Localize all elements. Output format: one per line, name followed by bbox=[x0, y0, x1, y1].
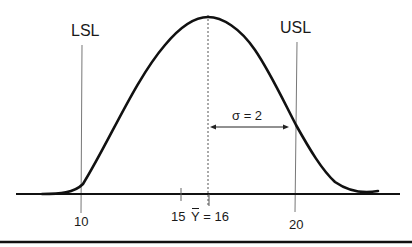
mean-label: Y = 16 bbox=[191, 209, 229, 224]
lsl-label: LSL bbox=[71, 22, 99, 40]
sigma-arrowhead-left bbox=[210, 125, 216, 130]
distribution-curve bbox=[42, 17, 378, 194]
sigma-arrowhead-right bbox=[283, 125, 289, 130]
mean-value: = 16 bbox=[200, 209, 229, 224]
mean-symbol: Y bbox=[191, 209, 200, 224]
lsl-line bbox=[81, 45, 82, 213]
tick-label-20: 20 bbox=[289, 217, 303, 232]
sigma-label: σ = 2 bbox=[232, 108, 262, 123]
usl-label: USL bbox=[280, 19, 311, 37]
tick-label-15: 15 bbox=[171, 209, 185, 224]
tick-label-10: 10 bbox=[74, 214, 88, 229]
